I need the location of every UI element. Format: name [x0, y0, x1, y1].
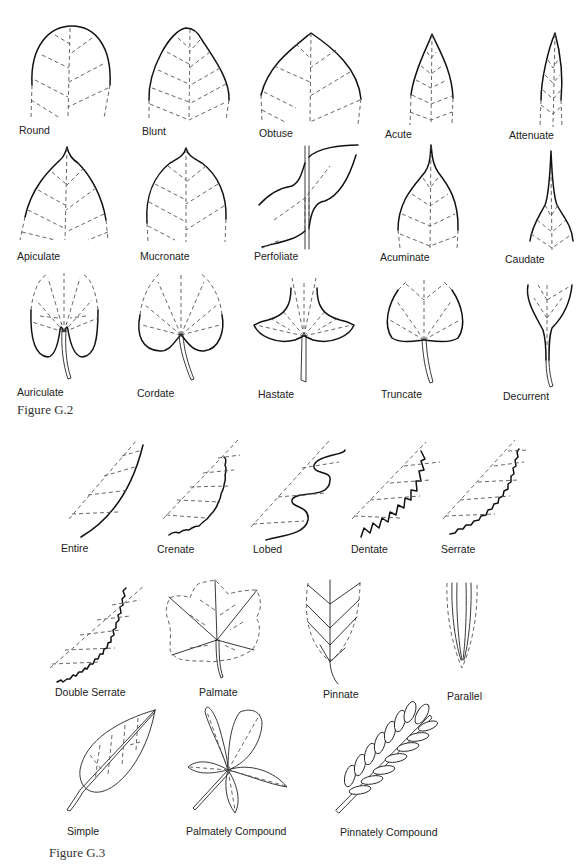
label-attenuate: Attenuate — [509, 129, 554, 141]
label-acute: Acute — [385, 128, 412, 140]
acuminate-leaf-tip-icon — [398, 145, 458, 250]
dentate-margin-icon — [352, 442, 440, 537]
blunt-leaf-tip-icon — [149, 28, 229, 120]
label-hastate: Hastate — [258, 388, 294, 400]
label-round: Round — [19, 124, 50, 136]
label-truncate: Truncate — [381, 388, 422, 400]
palmately-compound-leaf-icon — [188, 707, 287, 813]
leaflets — [342, 700, 438, 796]
caudate-leaf-tip-icon — [530, 151, 573, 250]
label-crenate: Crenate — [157, 543, 194, 555]
label-palmately-compound: Palmately Compound — [186, 825, 286, 837]
label-palmate: Palmate — [199, 686, 238, 698]
label-auriculate: Auriculate — [17, 386, 64, 398]
truncate-leaf-base-icon — [387, 280, 462, 383]
double-serrate-margin-icon — [50, 585, 145, 682]
label-acuminate: Acuminate — [380, 251, 430, 263]
simple-leaf-icon — [67, 710, 155, 811]
round-leaf-tip-icon — [31, 26, 110, 118]
apiculate-leaf-tip-icon — [20, 147, 108, 240]
figure-caption-g3: Figure G.3 — [49, 845, 105, 861]
label-parallel: Parallel — [447, 690, 482, 702]
crenate-margin-icon — [163, 440, 240, 535]
label-dentate: Dentate — [351, 543, 388, 555]
label-perfoliate: Perfoliate — [254, 250, 298, 262]
label-decurrent: Decurrent — [503, 390, 549, 402]
label-obtuse: Obtuse — [259, 127, 293, 139]
label-pinnately-compound: Pinnately Compound — [340, 826, 437, 838]
hastate-leaf-base-icon — [254, 278, 354, 382]
label-blunt: Blunt — [142, 125, 166, 137]
mucronate-leaf-tip-icon — [147, 148, 226, 242]
attenuate-leaf-tip-icon — [540, 33, 562, 127]
palmate-venation-icon — [166, 580, 260, 678]
perfoliate-leaf-icon — [259, 145, 358, 249]
auriculate-leaf-base-icon — [31, 273, 98, 379]
figure-caption-g2: Figure G.2 — [17, 402, 73, 418]
label-mucronate: Mucronate — [140, 250, 190, 262]
label-double-serrate: Double Serrate — [55, 686, 126, 698]
label-caudate: Caudate — [505, 253, 545, 265]
label-serrate: Serrate — [441, 543, 475, 555]
pinnately-compound-leaf-icon — [336, 700, 439, 813]
serrate-margin-icon — [443, 440, 528, 534]
decurrent-leaf-base-icon — [527, 285, 572, 387]
label-pinnate: Pinnate — [323, 688, 359, 700]
parallel-venation-icon — [447, 583, 477, 668]
entire-margin-icon — [69, 441, 143, 537]
label-simple: Simple — [67, 825, 99, 837]
label-entire: Entire — [61, 542, 88, 554]
label-cordate: Cordate — [137, 387, 174, 399]
acute-leaf-tip-icon — [410, 34, 453, 125]
lobed-margin-icon — [251, 440, 345, 540]
obtuse-leaf-tip-icon — [261, 33, 361, 124]
cordate-leaf-base-icon — [139, 273, 223, 380]
label-apiculate: Apiculate — [17, 250, 60, 262]
label-lobed: Lobed — [253, 543, 282, 555]
pinnate-venation-icon — [306, 580, 360, 684]
